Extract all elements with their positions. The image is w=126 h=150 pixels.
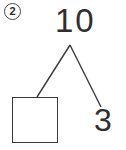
right-branch-line bbox=[70, 45, 101, 107]
answer-box-blank[interactable] bbox=[12, 97, 58, 143]
left-branch-line bbox=[37, 45, 70, 97]
number-bond-problem: 2 10 3 bbox=[0, 0, 126, 150]
part-number-given: 3 bbox=[94, 104, 124, 136]
